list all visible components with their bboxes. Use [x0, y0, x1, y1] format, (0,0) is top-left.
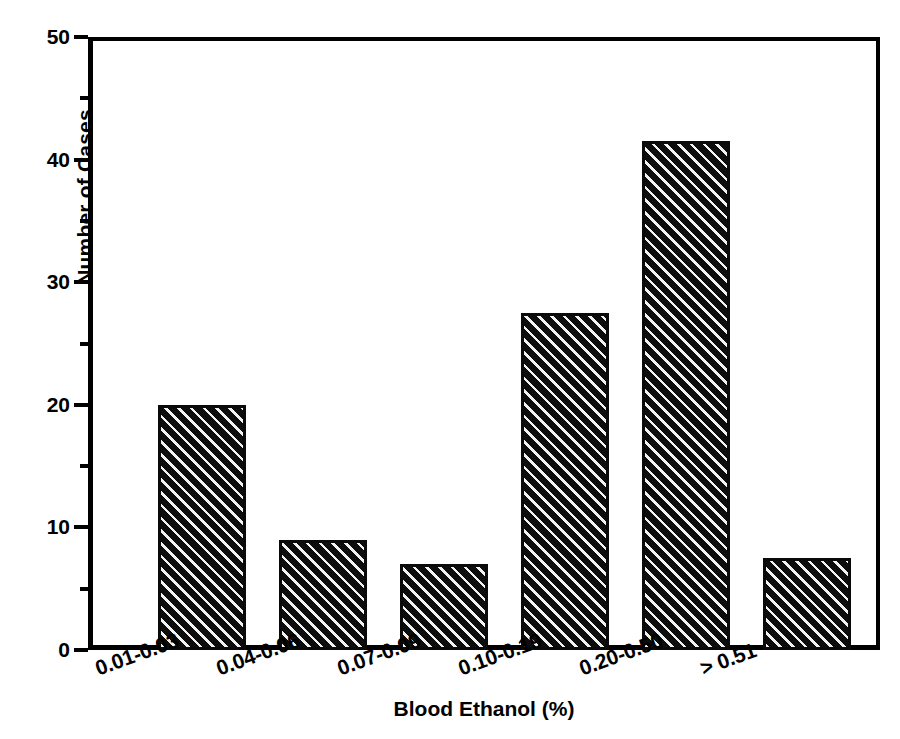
y-axis-minor-tick	[80, 587, 88, 591]
y-axis-tick-label: 0	[58, 638, 70, 662]
y-axis-minor-tick	[80, 96, 88, 100]
bar-chart: Number of Cases 01020304050 0.01-0.030.0…	[0, 0, 900, 739]
bar	[642, 141, 730, 650]
y-axis-major-tick	[74, 648, 88, 652]
y-axis-minor-tick	[80, 464, 88, 468]
y-axis-tick-label: 30	[47, 270, 70, 294]
y-axis-tick-label: 40	[47, 148, 70, 172]
y-axis-major-tick	[74, 280, 88, 284]
bar-series	[88, 37, 880, 650]
y-axis-tick-label: 10	[47, 515, 70, 539]
bar	[158, 405, 246, 650]
y-axis-major-tick	[74, 35, 88, 39]
bar	[521, 313, 609, 650]
bar	[763, 558, 851, 650]
y-axis-tick-label: 20	[47, 393, 70, 417]
y-axis-minor-tick	[80, 219, 88, 223]
y-axis-major-tick	[74, 403, 88, 407]
y-axis-major-tick	[74, 525, 88, 529]
y-axis-tick-label: 50	[47, 25, 70, 49]
y-axis-major-tick	[74, 158, 88, 162]
x-axis-title: Blood Ethanol (%)	[88, 697, 880, 721]
y-axis-minor-tick	[80, 342, 88, 346]
